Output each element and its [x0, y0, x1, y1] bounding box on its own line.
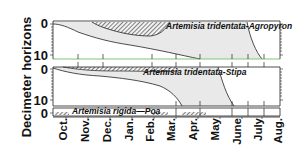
month-jan: Jan.: [123, 118, 135, 141]
month-oct: Oct.: [57, 118, 69, 140]
y-tick-p1-0: 0: [41, 16, 48, 31]
soil-moisture-chart: Decimeter horizons Artemisia tridentata-…: [0, 0, 299, 160]
month-aug: Aug.: [272, 118, 284, 144]
y-tick-p2-0: 0: [41, 62, 48, 77]
panel-agropyron: Artemisia tridentata-Agropyron: [53, 21, 292, 59]
hatched-area-poa-oct: [55, 112, 69, 115]
hatched-area-poa-apr: [182, 112, 206, 115]
month-may: May: [209, 117, 221, 140]
panel-title-poa: Artemisia rigida—Poa: [71, 106, 161, 116]
month-feb: Feb.: [144, 118, 156, 142]
month-mar: Mar.: [165, 118, 177, 141]
left-axis-ticks: [50, 24, 53, 113]
month-nov: Nov.: [79, 118, 91, 142]
x-axis-months: Oct. Nov. Dec. Jan. Feb. Mar. Apr. May J…: [57, 117, 284, 144]
panel-stipa: Artemisia tridentata-Stipa: [53, 62, 280, 106]
panel-poa: Artemisia rigida—Poa: [53, 106, 280, 116]
y-tick-p3-0: 0: [41, 106, 48, 121]
panel-title-stipa: Artemisia tridentata-Stipa: [142, 67, 247, 77]
right-axis-ticks: [280, 24, 283, 100]
y-axis-label: Decimeter horizons: [19, 17, 34, 138]
month-june: June: [231, 118, 243, 145]
y-tick-p1-10: 10: [34, 48, 48, 63]
month-july: July: [252, 117, 264, 141]
month-dec: Dec.: [101, 118, 113, 142]
panel-title-agropyron: Artemisia tridentata-Agropyron: [165, 21, 292, 31]
month-apr: Apr.: [187, 118, 199, 140]
